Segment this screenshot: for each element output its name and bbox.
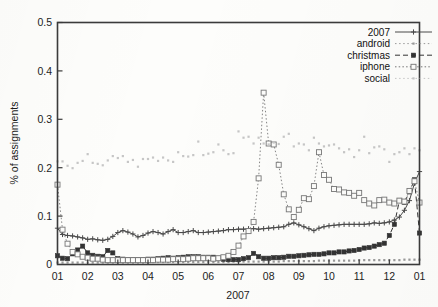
x-tick-label: 01: [414, 270, 426, 282]
figure-container: 00.10.20.30.40.5 01020304050607080910111…: [0, 0, 438, 307]
x-axis-label: 2007: [226, 289, 250, 301]
legend-label-2007: 2007: [368, 27, 391, 38]
x-tick-label: 12: [383, 270, 395, 282]
y-tick-label: 0.3: [37, 113, 52, 125]
x-tick-label: 04: [142, 270, 154, 282]
x-tick-label: 05: [172, 270, 184, 282]
x-tick-label: 01: [52, 270, 64, 282]
legend-label-christmas: christmas: [347, 50, 390, 61]
x-tick-label: 06: [202, 270, 214, 282]
y-tick-label: 0.1: [37, 210, 52, 222]
y-tick-label: 0.5: [37, 16, 52, 28]
x-tick-label: 10: [323, 270, 335, 282]
line-chart: 00.10.20.30.40.5 01020304050607080910111…: [0, 0, 438, 307]
y-tick-label: 0: [46, 258, 52, 270]
x-tick-label: 11: [354, 270, 365, 282]
x-tick-label: 08: [263, 270, 275, 282]
legend-label-android: android: [357, 38, 390, 49]
legend-label-iphone: iphone: [360, 61, 390, 72]
y-tick-label: 0.2: [37, 162, 52, 174]
y-axis-label: % of assignments: [8, 102, 20, 185]
x-tick-label: 02: [82, 270, 94, 282]
x-tick-label: 03: [112, 270, 124, 282]
x-tick-label: 07: [233, 270, 245, 282]
legend-label-social: social: [364, 73, 390, 84]
y-tick-label: 0.4: [37, 65, 52, 77]
x-tick-label: 09: [293, 270, 305, 282]
